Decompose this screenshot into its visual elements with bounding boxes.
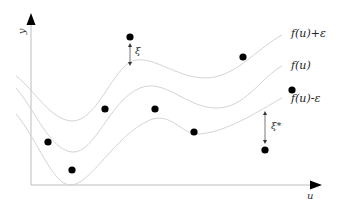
x-axis-arrow-icon — [310, 181, 322, 190]
y-axis-arrow-icon — [27, 13, 36, 25]
slack-arrowhead-up-icon — [263, 111, 267, 115]
curve-lower-bound — [16, 98, 282, 185]
slack-arrowhead-up-icon — [128, 43, 132, 47]
slack-label-xi: ξ — [135, 45, 141, 56]
curve-label-regression: f(u) — [291, 59, 311, 72]
data-point — [44, 138, 51, 145]
curve-upper-bound — [16, 35, 282, 121]
data-point — [126, 33, 133, 40]
slack-arrowhead-down-icon — [128, 62, 132, 66]
y-axis-label: y — [16, 29, 27, 35]
data-point — [68, 166, 75, 173]
data-point — [151, 105, 158, 112]
data-point — [190, 128, 197, 135]
curve-regression — [16, 66, 282, 152]
x-axis-label: u — [307, 190, 313, 201]
curve-label-upper-bound: f(u)+ε — [291, 27, 326, 40]
data-point — [239, 53, 246, 60]
data-points — [44, 33, 295, 173]
slack-label-xi-star: ξ* — [271, 120, 282, 131]
slack-arrowhead-down-icon — [263, 140, 267, 144]
curve-label-lower-bound: f(u)-ε — [291, 92, 320, 105]
data-point — [101, 105, 108, 112]
data-point — [261, 146, 268, 153]
